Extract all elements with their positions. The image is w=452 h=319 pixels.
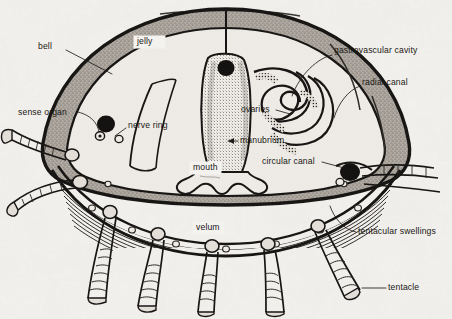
label-text-tentacular-swellings: tentacular swellings — [358, 226, 436, 236]
label-circular-canal: circular canal — [262, 156, 315, 166]
tentacular-swelling — [205, 240, 219, 252]
tentacular-swelling — [311, 220, 325, 232]
label-sense-organ: sense organ — [18, 107, 67, 117]
label-tentacular-swellings: tentacular swellings — [358, 226, 436, 236]
label-radial-canal: radial canal — [362, 77, 408, 87]
label-text-nerve-ring: nerve ring — [128, 120, 168, 130]
tentacular-swelling — [103, 206, 117, 219]
tentacular-swelling — [151, 228, 165, 240]
label-text-tentacle: tentacle — [388, 282, 419, 292]
label-text-jelly: jelly — [136, 36, 153, 46]
label-text-sense-organ: sense organ — [18, 107, 67, 117]
label-tentacle: tentacle — [388, 282, 419, 292]
tentacular-swelling — [261, 238, 275, 250]
label-mouth: mouth — [190, 162, 222, 175]
apical-sac — [218, 60, 235, 76]
label-text-gastrovascular-cavity: gastrovascular cavity — [334, 45, 418, 55]
label-text-bell: bell — [38, 41, 52, 51]
label-manubrium: manubrium — [240, 135, 284, 145]
label-text-circular-canal: circular canal — [262, 156, 315, 166]
label-text-manubrium: manubrium — [240, 135, 284, 145]
nerve-ring-dot — [97, 116, 115, 133]
label-jelly: jelly — [134, 36, 166, 49]
label-text-ovaries: ovaries — [241, 104, 270, 114]
nerve-ring-vesicle — [115, 135, 123, 142]
label-bell: bell — [38, 41, 52, 51]
label-ovaries: ovaries — [241, 104, 270, 114]
tentacular-swelling — [73, 176, 88, 189]
sense-organ-core — [98, 134, 101, 137]
label-velum: velum — [193, 222, 225, 235]
jellyfish-anatomy-diagram: belljellygastrovascular cavityradial can… — [0, 0, 452, 319]
label-text-radial-canal: radial canal — [362, 77, 408, 87]
label-text-velum: velum — [196, 222, 220, 232]
label-nerve-ring: nerve ring — [128, 120, 168, 130]
tentacular-swelling — [65, 149, 79, 161]
label-text-mouth: mouth — [193, 162, 218, 172]
label-gastrovascular-cavity: gastrovascular cavity — [334, 45, 418, 55]
